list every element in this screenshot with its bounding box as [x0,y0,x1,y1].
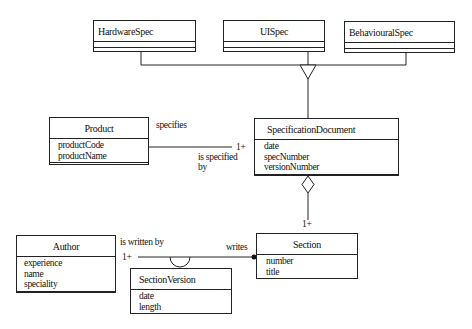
attribute: name [24,269,108,280]
operations-compartment [345,49,454,52]
class-name: SpecificationDocument [255,119,398,140]
attribute: speciality [24,279,108,290]
class-name: SectionVersion [131,269,231,290]
class-name: UISpec [224,21,324,42]
attribute: date [139,291,224,302]
operations-compartment [94,48,195,51]
attribute: title [266,267,350,278]
attribute: number [266,256,350,267]
attribute: specNumber [264,152,391,163]
aggregation-diamond-icon [302,176,314,193]
attributes-compartment: number title [257,255,357,279]
class-sectionversion: SectionVersion date length [130,268,232,314]
class-name: HardwareSpec [94,21,195,42]
operations-compartment [255,175,398,178]
operations-compartment [224,48,324,51]
association-class-arc [170,257,190,267]
operations-compartment [50,163,148,166]
generalization-triangle-icon [300,65,316,79]
attributes-compartment: productCode productName [50,139,148,163]
class-name: Author [17,236,115,257]
class-name: Product [50,118,148,139]
class-hardwarespec: HardwareSpec [93,20,196,52]
attribute: productCode [58,140,141,151]
attribute: experience [24,258,108,269]
attributes-compartment: date length [131,290,231,314]
class-section: Section number title [256,233,358,279]
attribute: date [264,141,391,152]
multiplicity-spec: 1+ [236,142,246,152]
label-writes: writes [226,242,247,252]
label-is-specified: is specified [198,152,237,162]
attributes-compartment: date specNumber versionNumber [255,140,398,175]
multiplicity-section: 1+ [302,219,312,229]
label-by: by [198,162,207,172]
class-name: Section [257,234,357,255]
class-behaviouralspec: BehaviouralSpec [344,21,455,53]
class-author: Author experience name speciality [16,235,116,293]
label-is-written-by: is written by [120,237,164,247]
attribute: versionNumber [264,162,391,173]
attribute: length [139,302,224,313]
attribute: productName [58,151,141,162]
operations-compartment [257,279,357,282]
label-specifies: specifies [156,120,187,130]
operations-compartment [17,292,115,295]
class-name: BehaviouralSpec [345,22,454,43]
class-specificationdocument: SpecificationDocument date specNumber ve… [254,118,399,176]
class-uispec: UISpec [223,20,325,52]
class-product: Product productCode productName [49,117,149,165]
operations-compartment [131,314,231,317]
multiplicity-author: 1+ [122,252,132,262]
attributes-compartment: experience name speciality [17,257,115,292]
